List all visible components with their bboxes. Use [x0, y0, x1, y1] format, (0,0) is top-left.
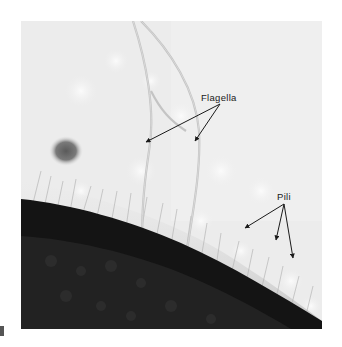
dark-particle [49, 136, 83, 166]
pili-label: Pili [277, 191, 291, 202]
micrograph-figure: Flagella Pili [0, 0, 342, 347]
flagella-label: Flagella [201, 92, 237, 103]
panel-marker [0, 326, 4, 336]
micrograph-photo [21, 21, 322, 329]
